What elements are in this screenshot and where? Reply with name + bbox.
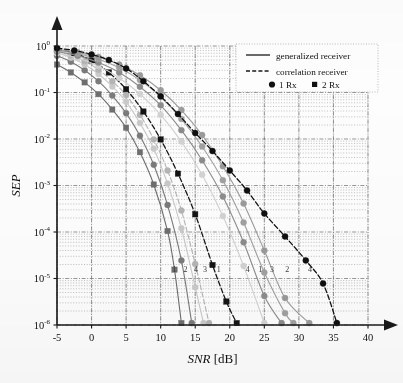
data-point-marker-circle xyxy=(241,201,247,207)
x-tick-label: 30 xyxy=(294,332,305,343)
data-point-marker-circle xyxy=(137,133,143,139)
data-point-marker-circle xyxy=(282,310,288,316)
x-tick-label: 15 xyxy=(190,332,201,343)
data-point-marker-square xyxy=(110,107,115,112)
data-point-marker-square xyxy=(123,125,128,130)
sep-vs-snr-chart: -5051015202530354010010-110-210-310-410-… xyxy=(0,0,403,383)
y-axis-label: SEP xyxy=(8,174,23,196)
curve-number-label: 4 xyxy=(194,265,198,274)
data-point-marker-circle xyxy=(261,211,267,217)
data-point-marker-circle xyxy=(192,130,198,136)
data-point-marker-circle xyxy=(244,188,250,194)
data-point-marker-circle xyxy=(220,213,226,219)
data-point-marker-circle xyxy=(199,172,205,178)
data-point-marker-circle xyxy=(227,168,233,174)
data-point-marker-circle xyxy=(178,257,184,263)
data-point-marker-circle xyxy=(210,148,216,154)
data-point-marker-circle xyxy=(199,143,205,149)
data-point-marker-square xyxy=(175,171,180,176)
data-point-marker-circle xyxy=(109,78,115,84)
curve-number-label: 3 xyxy=(270,265,274,274)
data-point-marker-circle xyxy=(320,281,326,287)
data-point-marker-circle xyxy=(220,177,226,183)
data-point-marker-circle xyxy=(137,91,143,97)
curve-number-label: 1 xyxy=(172,265,176,274)
legend-marker-circle-icon xyxy=(269,81,275,87)
data-point-marker-circle xyxy=(178,127,184,133)
data-point-marker-circle xyxy=(140,78,146,84)
data-point-marker-circle xyxy=(199,157,205,163)
data-point-marker-square xyxy=(68,70,73,75)
data-point-marker-circle xyxy=(123,65,129,71)
data-point-marker-circle xyxy=(123,110,129,116)
curve-number-label: 1 xyxy=(217,265,221,274)
legend: generalized receivercorrelation receiver… xyxy=(236,44,378,92)
data-point-marker-circle xyxy=(123,92,129,98)
data-point-marker-square xyxy=(82,80,87,85)
data-point-marker-circle xyxy=(151,146,157,152)
legend-label-generalized-receiver: generalized receiver xyxy=(276,51,350,61)
curve-number-label: 2 xyxy=(285,265,289,274)
x-tick-label: 10 xyxy=(155,332,166,343)
x-tick-label: 20 xyxy=(225,332,236,343)
data-point-marker-square xyxy=(224,299,229,304)
curve-number-label: 4 xyxy=(308,265,312,274)
data-point-marker-circle xyxy=(116,75,122,81)
data-point-marker-circle xyxy=(95,78,101,84)
data-point-marker-circle xyxy=(261,293,267,299)
legend-label-1rx: 1 Rx xyxy=(279,80,297,90)
data-point-marker-circle xyxy=(165,181,171,187)
data-point-marker-circle xyxy=(151,162,157,168)
figure-root: -5051015202530354010010-110-210-310-410-… xyxy=(0,0,403,383)
data-point-marker-circle xyxy=(165,202,171,208)
data-point-marker-circle xyxy=(109,93,115,99)
data-point-marker-circle xyxy=(137,72,143,78)
x-tick-label: 0 xyxy=(89,332,94,343)
legend-label-2rx: 2 Rx xyxy=(322,80,340,90)
data-point-marker-circle xyxy=(82,67,88,73)
data-point-marker-circle xyxy=(158,87,164,93)
data-point-marker-circle xyxy=(178,225,184,231)
data-point-marker-circle xyxy=(175,111,181,117)
data-point-marker-circle xyxy=(71,48,77,54)
data-point-marker-circle xyxy=(282,234,288,240)
data-point-marker-circle xyxy=(158,112,164,118)
data-point-marker-square xyxy=(165,228,170,233)
data-point-marker-circle xyxy=(89,51,95,57)
data-point-marker-circle xyxy=(137,120,143,126)
data-point-marker-circle xyxy=(158,93,164,99)
data-point-marker-square xyxy=(193,212,198,217)
data-point-marker-circle xyxy=(137,84,143,90)
curve-number-label: 3 xyxy=(203,265,207,274)
curve-number-label: 1 xyxy=(258,265,262,274)
x-tick-label: 25 xyxy=(259,332,270,343)
data-point-marker-square xyxy=(141,109,146,114)
data-point-marker-circle xyxy=(192,284,198,290)
x-tick-label: 35 xyxy=(328,332,339,343)
legend-label-correlation-receiver: correlation receiver xyxy=(276,67,348,77)
data-point-marker-circle xyxy=(123,99,129,105)
x-tick-label: -5 xyxy=(53,332,62,343)
data-point-marker-circle xyxy=(282,295,288,301)
curve-number-label: 2 xyxy=(184,265,188,274)
x-tick-label: 5 xyxy=(123,332,128,343)
data-point-marker-circle xyxy=(151,136,157,142)
x-axis-label: SNR [dB] xyxy=(187,351,237,366)
data-point-marker-circle xyxy=(220,194,226,200)
data-point-marker-circle xyxy=(303,257,309,263)
data-point-marker-circle xyxy=(165,168,171,174)
data-point-marker-circle xyxy=(199,132,205,138)
data-point-marker-circle xyxy=(241,220,247,226)
data-point-marker-square xyxy=(123,86,128,91)
data-point-marker-square xyxy=(210,262,215,267)
data-point-marker-circle xyxy=(241,239,247,245)
data-point-marker-square xyxy=(96,91,101,96)
data-point-marker-circle xyxy=(178,139,184,145)
legend-marker-square-icon xyxy=(312,82,317,87)
data-point-marker-circle xyxy=(261,248,267,254)
x-tick-label: 40 xyxy=(363,332,374,343)
curve-number-label: 4 xyxy=(246,265,250,274)
data-point-marker-circle xyxy=(261,269,267,275)
data-point-marker-circle xyxy=(158,102,164,108)
data-point-marker-square xyxy=(137,150,142,155)
